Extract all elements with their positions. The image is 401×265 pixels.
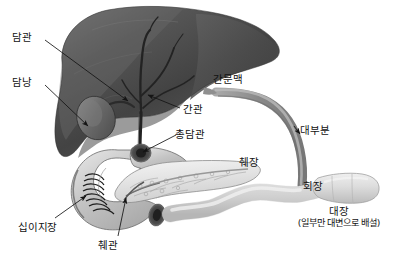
anatomy-diagram-canvas: 담관 담낭 간문맥 간관 총담관 췌장 대부분 회장 십이지장 췌관 대장 (일… bbox=[0, 0, 401, 265]
label-portal-vein: 간문맥 bbox=[213, 74, 242, 86]
label-ileum: 회장 bbox=[303, 181, 323, 193]
label-large-intestine-title: 대장 bbox=[280, 206, 398, 218]
label-pancreatic-duct: 췌관 bbox=[98, 240, 118, 252]
label-hepatic-duct: 간관 bbox=[183, 104, 203, 116]
label-large-intestine-note: (일부만 대변으로 배설) bbox=[280, 218, 398, 228]
label-gallbladder: 담낭 bbox=[12, 77, 32, 89]
label-large-intestine-group: 대장 (일부만 대변으로 배설) bbox=[280, 206, 398, 228]
label-bile-duct: 담관 bbox=[12, 32, 32, 44]
label-duodenum: 십이지장 bbox=[18, 222, 57, 234]
label-common-bile-duct: 총담관 bbox=[175, 129, 204, 141]
label-most-portion: 대부분 bbox=[300, 125, 329, 137]
label-pancreas: 췌장 bbox=[239, 157, 259, 169]
